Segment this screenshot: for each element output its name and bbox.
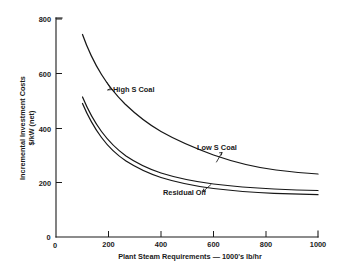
x-tick-label-200: 200	[102, 240, 114, 249]
incremental-investment-costs-chart: 800 600 400 200 0 0 200 400 600 800 1000…	[0, 0, 344, 269]
y-tick-label-200: 200	[39, 179, 51, 188]
chart-page: 800 600 400 200 0 0 200 400 600 800 1000…	[0, 0, 344, 269]
y-tick-label-600: 600	[39, 70, 51, 79]
y-tick-label-0: 0	[47, 233, 51, 242]
chart-background	[0, 0, 344, 269]
y-tick-label-400: 400	[39, 125, 51, 134]
x-tick-label-800: 800	[260, 240, 272, 249]
x-axis-title: Plant Steam Requirements — 1000's lb/hr	[118, 252, 262, 261]
x-tick-label-0: 0	[53, 241, 57, 250]
y-axis-title-line2: $/kW (net)	[27, 110, 36, 145]
x-tick-label-1000: 1000	[310, 240, 326, 249]
x-tick-label-400: 400	[155, 240, 167, 249]
series-label-high-s-coal: High S Coal	[113, 85, 154, 94]
y-tick-label-800: 800	[39, 15, 51, 24]
series-label-low-s-coal: Low S Coal	[197, 143, 237, 152]
y-axis-title-line1: Incremental Investment Costs	[18, 76, 27, 180]
series-label-residual-oil: Residual Oil	[163, 188, 206, 197]
x-tick-label-600: 600	[207, 240, 219, 249]
